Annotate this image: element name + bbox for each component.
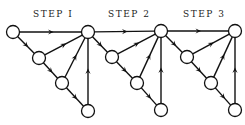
step-labels: STEP I STEP 2 STEP 3 (33, 9, 225, 19)
node-n3b (205, 77, 218, 90)
node-n1a (33, 52, 46, 65)
node-n2a (106, 51, 119, 64)
node-n2b (131, 77, 144, 90)
node-a (7, 26, 20, 39)
node-n1c (82, 105, 95, 118)
node-n1b (56, 77, 69, 90)
node-h2 (155, 25, 168, 38)
node-n3a (181, 51, 194, 64)
step-label-3: STEP 3 (183, 9, 225, 19)
step-diagram: STEP I STEP 2 STEP 3 (0, 0, 245, 125)
step-label-2: STEP 2 (108, 9, 150, 19)
node-n3c (229, 104, 242, 117)
node-h1 (82, 26, 95, 39)
step-label-1: STEP I (33, 9, 73, 19)
edges (18, 31, 235, 106)
node-n2c (155, 104, 168, 117)
arrowheads (22, 28, 237, 99)
node-h3 (229, 25, 242, 38)
